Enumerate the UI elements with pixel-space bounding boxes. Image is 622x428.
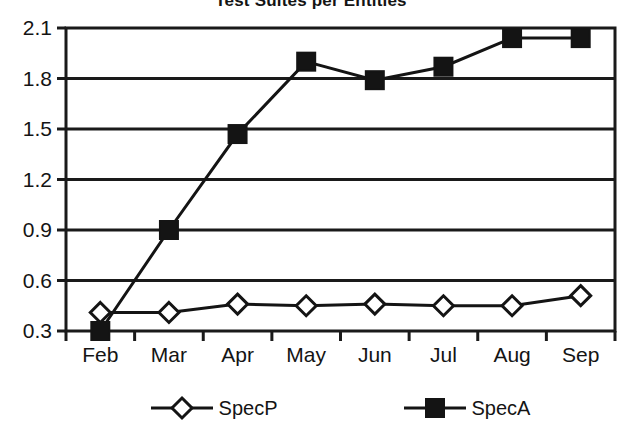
data-series-layer: [90, 29, 590, 340]
data-point-marker-open-diamond: [159, 302, 179, 322]
x-axis-tick-label: Jul: [409, 344, 478, 374]
data-point-marker-open-diamond: [502, 296, 522, 316]
x-axis-tick-label: Sep: [546, 344, 615, 374]
legend-entry-speca[interactable]: SpecA: [404, 395, 531, 421]
series-speca: [91, 29, 589, 340]
data-point-marker-open-diamond: [228, 294, 248, 314]
x-axis-tick-label: May: [272, 344, 341, 374]
x-axis-tick-labels: FebMarAprMayJunJulAugSep: [66, 344, 615, 374]
legend-label: SpecP: [219, 398, 278, 418]
data-point-marker-filled-square: [297, 53, 315, 71]
data-point-marker-open-diamond: [365, 294, 385, 314]
chart-legend: SpecPSpecA: [66, 392, 615, 424]
legend-label: SpecA: [472, 398, 531, 418]
x-axis-tick-label: Mar: [135, 344, 204, 374]
data-point-marker-filled-square: [91, 322, 109, 340]
data-point-marker-filled-square: [229, 125, 247, 143]
legend-entry-specp[interactable]: SpecP: [151, 395, 278, 421]
chart-container: Test Suites per Entities 0.30.60.91.21.5…: [0, 0, 622, 428]
data-point-marker-filled-square: [572, 29, 590, 47]
data-point-marker-open-diamond: [571, 286, 591, 306]
data-point-marker-open-diamond: [172, 398, 192, 418]
gridlines: [66, 79, 615, 281]
data-point-marker-filled-square: [160, 221, 178, 239]
legend-swatch-filled-square: [404, 395, 466, 421]
x-axis-tick-label: Jun: [341, 344, 410, 374]
legend-swatch-open-diamond: [151, 395, 213, 421]
series-line: [100, 38, 580, 331]
x-axis-tick-label: Apr: [203, 344, 272, 374]
data-point-marker-open-diamond: [296, 296, 316, 316]
data-point-marker-filled-square: [434, 58, 452, 76]
x-axis-tick-label: Aug: [478, 344, 547, 374]
data-point-marker-filled-square: [366, 71, 384, 89]
x-axis-tick-label: Feb: [66, 344, 135, 374]
data-point-marker-filled-square: [426, 399, 444, 417]
series-specp: [90, 286, 590, 323]
data-point-marker-filled-square: [503, 29, 521, 47]
data-point-marker-open-diamond: [433, 296, 453, 316]
